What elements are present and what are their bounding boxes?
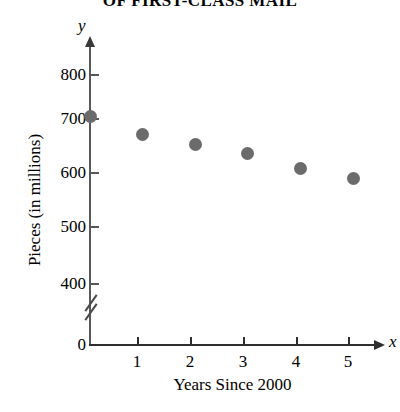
x-tick-label: 3 xyxy=(228,352,258,372)
x-tick-mark xyxy=(296,337,298,345)
chart-figure: OF FIRST-CLASS MAIL y x 800 700 600 500 … xyxy=(0,0,400,412)
chart-title: OF FIRST-CLASS MAIL xyxy=(0,0,400,11)
x-axis-variable-label: x xyxy=(389,332,397,352)
data-point xyxy=(294,162,307,175)
y-tick-mark xyxy=(91,172,99,174)
x-tick-label: 2 xyxy=(175,352,205,372)
data-point xyxy=(84,110,97,123)
x-tick-label: 4 xyxy=(281,352,311,372)
y-tick-origin: 0 xyxy=(0,336,86,353)
y-tick-800: 800 xyxy=(0,66,86,83)
x-axis-arrow-icon xyxy=(374,340,385,350)
y-tick-mark xyxy=(91,283,99,285)
data-point xyxy=(189,138,202,151)
y-axis-arrow-icon xyxy=(85,36,95,47)
x-tick-mark xyxy=(190,337,192,345)
x-tick-label: 1 xyxy=(122,352,152,372)
data-point xyxy=(241,147,254,160)
y-tick-mark xyxy=(91,226,99,228)
y-axis-variable-label: y xyxy=(78,16,86,36)
x-axis-line xyxy=(89,344,376,346)
data-point xyxy=(347,172,360,185)
x-axis-title: Years Since 2000 xyxy=(89,375,376,395)
x-tick-mark xyxy=(348,337,350,345)
data-point xyxy=(136,128,149,141)
x-tick-label: 5 xyxy=(333,352,363,372)
y-tick-label: 800 xyxy=(34,66,86,83)
x-tick-mark xyxy=(137,337,139,345)
x-tick-mark xyxy=(243,337,245,345)
y-axis-title: Pieces (in millions) xyxy=(25,100,45,300)
origin-label: 0 xyxy=(34,336,86,353)
y-tick-mark xyxy=(91,74,99,76)
